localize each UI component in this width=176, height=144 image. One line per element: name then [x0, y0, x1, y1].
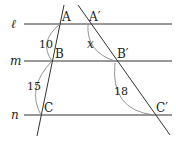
label-point-a-prime: A′ [88, 10, 101, 24]
label-point-b-prime: B′ [117, 47, 129, 61]
label-point-c: C [44, 101, 53, 115]
parallel-lines-diagram: ℓ m n A B C A′ B′ C′ 10 15 x 18 [0, 0, 176, 144]
label-line-m: m [10, 54, 21, 68]
label-point-a: A [61, 10, 71, 24]
label-point-c-prime: C′ [156, 101, 168, 115]
length-bc: 15 [27, 80, 41, 93]
length-a-prime-b-prime: x [87, 37, 94, 51]
length-ab: 10 [39, 38, 53, 51]
length-b-prime-c-prime: 18 [114, 85, 128, 98]
label-line-n: n [11, 108, 19, 122]
transversal-left [37, 5, 64, 136]
label-point-b: B [55, 47, 64, 61]
label-line-l: ℓ [11, 17, 16, 31]
